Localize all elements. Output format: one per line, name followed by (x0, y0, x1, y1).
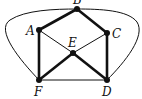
node-d (104, 77, 110, 83)
graph-diagram: A B C D E F (0, 0, 142, 99)
label-d: D (101, 85, 112, 99)
edge-e-c (73, 33, 107, 53)
edge-b-c (77, 9, 107, 33)
node-c (104, 30, 110, 36)
label-b: B (72, 0, 82, 7)
edge-e-d (73, 53, 107, 80)
label-f: F (33, 85, 43, 99)
node-f (36, 77, 42, 83)
edge-f-e (39, 53, 73, 80)
label-c: C (112, 27, 121, 41)
edge-a-b (39, 9, 77, 30)
edge-f-b-curved (5, 9, 77, 80)
label-a: A (25, 24, 35, 38)
label-e: E (67, 36, 77, 50)
node-e (70, 50, 76, 56)
node-a (36, 27, 42, 33)
